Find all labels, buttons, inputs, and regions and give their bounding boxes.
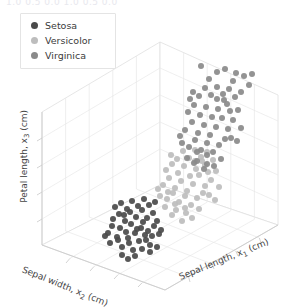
legend-label-setosa: Setosa [45, 21, 77, 31]
chart-figure: 1.0 0.5 0.0 1.0 0.5 0.0 [0, 0, 293, 308]
z-axis-label-sub: 3 [23, 134, 31, 138]
top-clipped-tick-strip: 1.0 0.5 0.0 1.0 0.5 0.0 [0, 0, 293, 9]
legend-marker-setosa [31, 22, 38, 29]
z-axis-label-text: Petal length, x [19, 138, 29, 203]
legend-item-versicolor[interactable]: Versicolor [27, 33, 109, 48]
legend-item-virginica[interactable]: Virginica [27, 48, 109, 63]
legend-label-versicolor: Versicolor [45, 36, 92, 46]
legend-label-virginica: Virginica [45, 51, 86, 61]
top-clipped-tick-text: 1.0 0.5 0.0 1.0 0.5 0.0 [6, 0, 118, 7]
legend-marker-virginica [31, 52, 38, 59]
legend-marker-versicolor [31, 37, 38, 44]
legend[interactable]: Setosa Versicolor Virginica [20, 13, 116, 69]
z-axis-label-units: (cm) [19, 110, 29, 134]
legend-item-setosa[interactable]: Setosa [27, 18, 109, 33]
z-axis-label: Petal length, x3 (cm) [19, 101, 32, 211]
